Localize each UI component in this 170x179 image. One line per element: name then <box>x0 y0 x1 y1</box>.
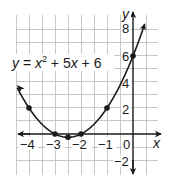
y-tick-minus-2: −2 <box>114 154 129 169</box>
point-vertex <box>65 134 71 140</box>
x-tick-minus-1: −1 <box>98 137 113 152</box>
y-axis-label: y <box>121 6 130 22</box>
grid <box>16 15 158 175</box>
y-tick-8: 8 <box>122 21 129 36</box>
x-axis-label: x <box>152 135 161 151</box>
point-x-minus-3 <box>52 131 58 137</box>
equation-label: y = x2 + 5x + 6 <box>11 54 102 71</box>
y-tick-2: 2 <box>122 102 129 117</box>
parabola-graph: y = x2 + 5x + 6 8 6 4 2 −2 −4 −3 −2 −1 0… <box>0 0 170 179</box>
point-y-intercept <box>130 53 136 59</box>
point-x-minus-1 <box>104 105 110 111</box>
x-tick-minus-3: −3 <box>46 137 61 152</box>
x-tick-0: 0 <box>123 137 130 152</box>
point-x-minus-2 <box>78 131 84 137</box>
point-x-minus-4 <box>26 105 32 111</box>
x-tick-minus-4: −4 <box>20 137 35 152</box>
y-tick-6: 6 <box>122 49 129 64</box>
x-tick-minus-2: −2 <box>72 137 87 152</box>
